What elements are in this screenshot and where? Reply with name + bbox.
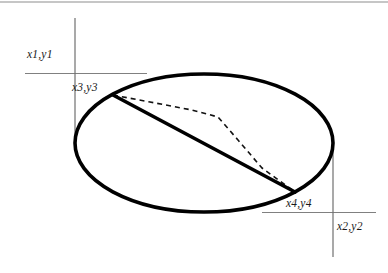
ellipse-diagram-svg [0, 0, 388, 273]
point-label-x1y1: x1,y1 [27, 49, 53, 61]
diagram-canvas: x1,y1 x3,y3 x4,y4 x2,y2 [0, 0, 388, 273]
point-label-x4y4: x4,y4 [286, 198, 312, 210]
solid-chord [113, 95, 295, 192]
point-label-x2y2: x2,y2 [337, 221, 363, 233]
point-label-x3y3: x3,y3 [72, 82, 98, 94]
